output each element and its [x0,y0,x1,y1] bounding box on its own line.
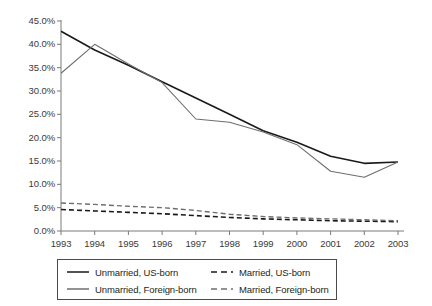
x-tick-label: 1994 [78,238,112,249]
series-line-2 [61,210,398,222]
chart-series [61,31,398,221]
line-chart: 0.0%5.0%10.0%15.0%20.0%25.0%30.0%35.0%40… [0,0,432,306]
legend-swatch-solid-line-icon [66,267,90,277]
y-tick-label: 0.0% [11,225,55,236]
y-tick-label: 30.0% [11,85,55,96]
y-tick-label: 5.0% [11,202,55,213]
series-line-1 [61,44,398,177]
y-tick-label: 15.0% [11,155,55,166]
y-tick-label: 10.0% [11,178,55,189]
y-tick-label: 40.0% [11,38,55,49]
x-tick-label: 1993 [44,238,78,249]
x-tick-label: 2001 [314,238,348,249]
legend-swatch-dashed-line-icon [210,267,234,277]
y-tick-label: 25.0% [11,108,55,119]
legend-item: Unmarried, US-born [66,265,178,279]
y-tick-label: 20.0% [11,132,55,143]
legend-label: Unmarried, US-born [95,267,178,278]
series-line-0 [61,31,398,163]
legend-label: Unmarried, Foreign-born [95,284,197,295]
x-tick-label: 1999 [246,238,280,249]
chart-legend: Unmarried, US-bornMarried, US-bornUnmarr… [57,259,337,300]
x-tick-label: 2000 [280,238,314,249]
x-tick-label: 1998 [213,238,247,249]
legend-item: Married, Foreign-born [210,282,329,296]
x-tick-label: 1995 [111,238,145,249]
legend-item: Unmarried, Foreign-born [66,282,197,296]
legend-label: Married, Foreign-born [239,284,329,295]
y-tick-label: 45.0% [11,15,55,26]
x-tick-label: 2003 [381,238,415,249]
legend-item: Married, US-born [210,265,310,279]
legend-label: Married, US-born [239,267,310,278]
legend-swatch-dashed-line-icon [210,284,234,294]
x-tick-label: 1996 [145,238,179,249]
x-tick-label: 1997 [179,238,213,249]
x-tick-label: 2002 [347,238,381,249]
legend-swatch-solid-line-icon [66,284,90,294]
y-tick-label: 35.0% [11,62,55,73]
